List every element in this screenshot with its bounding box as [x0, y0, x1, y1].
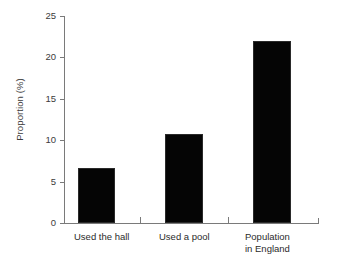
x-axis-spine [64, 223, 319, 224]
x-category-label-used-a-pool: Used a pool [159, 231, 210, 243]
x-category-label-used-the-hall: Used the hall [74, 231, 129, 243]
bar-used-a-pool[interactable] [165, 134, 203, 223]
x-axis-separator-tick-2 [228, 217, 229, 224]
y-tick-label-5: 5 [30, 177, 56, 187]
y-axis-spine [64, 16, 65, 224]
y-tick-label-0: 0 [30, 218, 56, 228]
bar-chart-figure: Proportion (%) 25 20 15 10 5 0 Used the [0, 0, 337, 276]
x-axis-end-tick [318, 218, 319, 223]
y-tick-label-10: 10 [30, 135, 56, 145]
y-tick-label-25: 25 [30, 11, 56, 21]
y-tick-label-20: 20 [30, 52, 56, 62]
y-axis-title: Proportion (%) [14, 50, 25, 170]
bar-used-the-hall[interactable] [78, 168, 115, 223]
bar-population-in-england[interactable] [253, 41, 291, 223]
chart-screenshot: Proportion (%) 25 20 15 10 5 0 Used the [0, 0, 337, 276]
x-category-label-population-line2: in England [245, 243, 290, 255]
y-tick-label-15: 15 [30, 94, 56, 104]
x-category-label-population-line1: Population [245, 231, 290, 243]
x-axis-separator-tick-1 [140, 217, 141, 224]
